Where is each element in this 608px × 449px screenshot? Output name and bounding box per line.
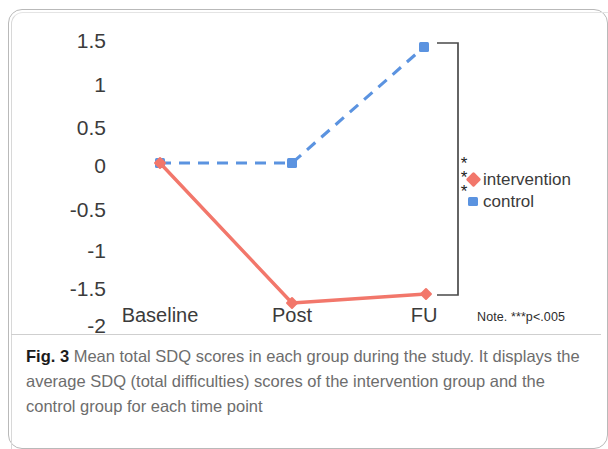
chart-legend: intervention control — [468, 168, 598, 212]
legend-item-control: control — [468, 190, 598, 212]
caption-divider — [11, 334, 601, 335]
figure-caption: Fig. 3 Mean total SDQ scores in each gro… — [26, 344, 588, 419]
x-tick-label-post: Post — [272, 305, 312, 325]
square-marker-icon — [468, 197, 478, 206]
figure-label: Fig. 3 — [26, 347, 69, 365]
legend-label-intervention: intervention — [483, 171, 571, 188]
intervention-line — [160, 163, 426, 303]
legend-item-intervention: intervention — [468, 168, 598, 190]
series-control — [155, 42, 429, 168]
line-chart: 1.5 1 0.5 0 -0.5 -1 -1.5 -2 — [0, 0, 601, 334]
figure-caption-text: Mean total SDQ scores in each group duri… — [26, 347, 580, 415]
x-tick-label-baseline: Baseline — [122, 305, 199, 325]
legend-label-control: control — [483, 193, 534, 210]
control-line — [160, 47, 424, 163]
significance-note: Note. ***p<.005 — [477, 310, 565, 324]
diamond-marker-icon — [466, 171, 482, 187]
control-point-post — [287, 158, 297, 168]
plot-area — [0, 0, 601, 334]
series-intervention — [154, 157, 433, 310]
control-point-fu — [419, 42, 429, 52]
x-tick-label-fu: FU — [411, 305, 438, 325]
intervention-point-fu — [420, 288, 433, 301]
